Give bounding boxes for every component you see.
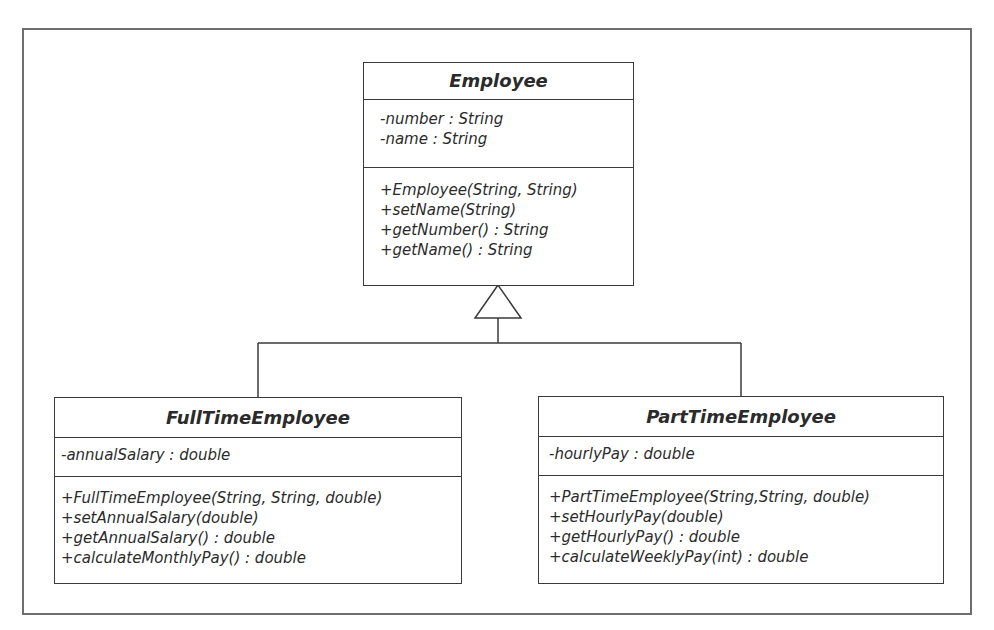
operation: +calculateWeeklyPay(int) : double [549, 547, 943, 567]
class-name: PartTimeEmployee [539, 397, 943, 437]
class-full-time-employee: FullTimeEmployee -annualSalary : double … [54, 397, 462, 584]
class-name: Employee [364, 63, 633, 100]
attribute: -name : String [380, 129, 633, 149]
operation: +getAnnualSalary() : double [61, 528, 461, 548]
operation: +getHourlyPay() : double [549, 527, 943, 547]
class-name: FullTimeEmployee [55, 398, 461, 438]
operation: +getName() : String [380, 240, 633, 260]
operations-section: +FullTimeEmployee(String, String, double… [55, 476, 461, 568]
attributes-section: -annualSalary : double [55, 438, 461, 476]
operation: +calculateMonthlyPay() : double [61, 548, 461, 568]
operation: +FullTimeEmployee(String, String, double… [61, 488, 461, 508]
attributes-section: -hourlyPay : double [539, 437, 943, 475]
operation: +PartTimeEmployee(String,String, double) [549, 487, 943, 507]
operation: +setName(String) [380, 200, 633, 220]
operation: +getNumber() : String [380, 220, 633, 240]
operations-section: +PartTimeEmployee(String,String, double)… [539, 475, 943, 567]
generalization-arrow-icon [475, 285, 521, 318]
class-part-time-employee: PartTimeEmployee -hourlyPay : double +Pa… [538, 396, 944, 584]
attribute: -hourlyPay : double [549, 444, 943, 464]
attribute: -annualSalary : double [61, 445, 461, 465]
attribute: -number : String [380, 109, 633, 129]
operations-section: +Employee(String, String) +setName(Strin… [364, 167, 633, 260]
operation: +setAnnualSalary(double) [61, 508, 461, 528]
operation: +setHourlyPay(double) [549, 507, 943, 527]
class-employee: Employee -number : String -name : String… [363, 62, 634, 286]
operation: +Employee(String, String) [380, 180, 633, 200]
attributes-section: -number : String -name : String [364, 100, 633, 167]
